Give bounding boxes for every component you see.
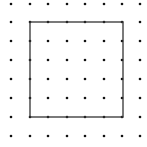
grid-dot: [139, 3, 142, 6]
grid-dot: [139, 135, 142, 138]
grid-dot: [47, 59, 50, 62]
grid-dot: [84, 3, 87, 6]
grid-dot: [47, 135, 50, 138]
grid-dot: [139, 78, 142, 81]
grid-dot: [103, 135, 106, 138]
grid-dot: [84, 135, 87, 138]
grid-dot: [103, 97, 106, 100]
grid-dot: [139, 97, 142, 100]
grid-dot: [66, 40, 69, 43]
grid-dot: [66, 59, 69, 62]
grid-dot: [10, 40, 13, 43]
grid-dot: [29, 3, 32, 6]
grid-dot: [139, 116, 142, 119]
grid-dot: [47, 40, 50, 43]
grid-dot: [47, 97, 50, 100]
grid-dot: [47, 78, 50, 81]
grid-dot: [84, 40, 87, 43]
grid-dot: [139, 40, 142, 43]
grid-dot: [10, 135, 13, 138]
grid-dot: [10, 78, 13, 81]
grid-dot: [139, 59, 142, 62]
dot-grid-diagram: [0, 0, 147, 147]
grid-dot: [66, 97, 69, 100]
grid-dot: [10, 116, 13, 119]
grid-dot: [10, 59, 13, 62]
grid-dot: [103, 3, 106, 6]
grid-dot: [66, 3, 69, 6]
grid-dot: [10, 97, 13, 100]
grid-dot: [103, 78, 106, 81]
grid-dot: [103, 40, 106, 43]
grid-dot: [84, 78, 87, 81]
grid-dot: [66, 78, 69, 81]
grid-dot: [10, 21, 13, 24]
grid-dot: [84, 59, 87, 62]
grid-dot: [10, 3, 13, 6]
grid-dot: [29, 135, 32, 138]
square-shape: [30, 22, 123, 117]
grid-dot: [139, 21, 142, 24]
grid-dot: [121, 3, 124, 6]
grid-dot: [103, 59, 106, 62]
grid-dot: [121, 135, 124, 138]
grid-dot: [66, 135, 69, 138]
grid-dot: [47, 3, 50, 6]
grid-dot: [84, 97, 87, 100]
